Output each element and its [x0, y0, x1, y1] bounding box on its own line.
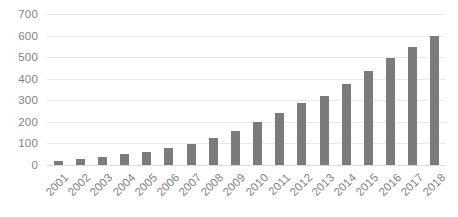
bar — [98, 157, 107, 165]
bar-chart: 0100200300400500600700 20012002200320042… — [0, 0, 458, 217]
x-axis-label: 2010 — [240, 171, 270, 201]
bar — [408, 47, 417, 165]
plot-area — [47, 14, 446, 165]
bar — [142, 152, 151, 165]
bar — [364, 71, 373, 165]
x-axis-label: 2016 — [373, 171, 403, 201]
x-axis-label: 2015 — [351, 171, 381, 201]
bar — [297, 103, 306, 165]
y-axis-label: 0 — [31, 159, 38, 171]
bar-series — [47, 14, 446, 165]
y-axis-label: 300 — [18, 94, 38, 106]
bar — [386, 58, 395, 165]
bar — [120, 154, 129, 165]
bar — [187, 144, 196, 165]
y-axis-label: 200 — [18, 116, 38, 128]
bar — [320, 96, 329, 165]
y-axis-label: 100 — [18, 137, 38, 149]
bar — [253, 122, 262, 165]
y-axis-label: 600 — [18, 30, 38, 42]
x-axis-label: 2009 — [218, 171, 248, 201]
bar — [209, 138, 218, 165]
bar — [275, 113, 284, 165]
y-axis-label: 400 — [18, 73, 38, 85]
bar — [164, 148, 173, 165]
bar — [231, 131, 240, 166]
x-axis-label: 2004 — [107, 171, 137, 201]
bar — [430, 36, 439, 165]
y-axis: 0100200300400500600700 — [0, 0, 47, 217]
y-axis-label: 500 — [18, 51, 38, 63]
x-axis: 2001200220032004200520062007200820092010… — [47, 165, 446, 217]
y-axis-label: 700 — [18, 8, 38, 20]
x-axis-label: 2003 — [85, 171, 115, 201]
bar — [342, 84, 351, 165]
